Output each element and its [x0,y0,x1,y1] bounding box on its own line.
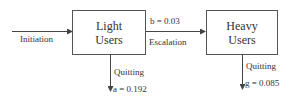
quit-heavy-rate: g = 0.085 [245,78,279,88]
quit-light-label: Quitting [114,67,144,77]
escalation-label: Escalation [149,37,187,47]
escalation-rate-label: b = 0.03 [150,16,180,26]
light-users-line1: Light [96,19,122,33]
quit-heavy-label: Quitting [246,61,276,71]
heavy-users-node: Heavy Users [206,10,278,55]
light-users-node: Light Users [72,10,146,55]
initiation-label: Initiation [20,34,53,44]
heavy-users-line1: Heavy [226,19,257,33]
heavy-users-line2: Users [228,33,255,47]
light-users-line2: Users [95,33,122,47]
quit-light-rate: a = 0.192 [113,84,147,94]
